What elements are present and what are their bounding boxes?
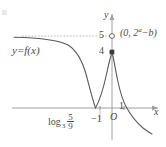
x-tick-label-1: 1 — [119, 100, 124, 111]
curve-spike-up — [96, 52, 113, 108]
x-axis-label: x — [154, 106, 158, 117]
y-axis-arrow — [110, 14, 115, 20]
graph-canvas — [0, 0, 166, 147]
origin-label: O — [110, 111, 117, 122]
curve-right-branch — [112, 52, 152, 134]
point-label-head: (0, 2 — [120, 27, 138, 38]
function-label: y=f(x) — [12, 44, 40, 56]
log-expression-label: log 3 5 9 — [48, 113, 74, 131]
x-tick-label-neg1: −1 — [91, 113, 102, 124]
open-circle-point-0-5 — [110, 34, 115, 39]
y-tick-label-4: 4 — [99, 45, 104, 56]
point-coordinate-label: (0, 2a−b) — [120, 26, 157, 38]
fraction-denominator: 9 — [67, 122, 74, 130]
y-axis-label: y — [104, 9, 108, 20]
function-graph-figure: y=f(x) (0, 2a−b) y x 5 4 1 −1 O log 3 5 … — [0, 0, 166, 147]
point-label-tail: −b) — [142, 27, 157, 38]
fraction-5-over-9: 5 9 — [67, 113, 74, 131]
y-tick-label-5: 5 — [99, 29, 104, 40]
log-text: log — [48, 116, 61, 127]
filled-square-point-0-4 — [110, 50, 115, 55]
log-base: 3 — [62, 122, 66, 131]
corner-artifact-mark — [2, 10, 7, 15]
